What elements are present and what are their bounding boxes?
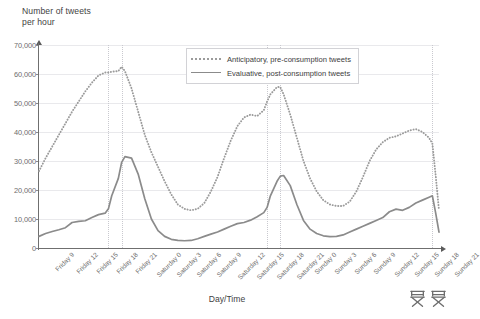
y-tick-label: 0 bbox=[2, 244, 36, 253]
x-axis-tick-labels: Friday 9Friday 12Friday 15Friday 18Frida… bbox=[39, 249, 441, 297]
legend-swatch-solid-icon bbox=[191, 71, 221, 75]
director-chair-icon-group bbox=[409, 288, 447, 308]
director-chair-icon bbox=[409, 288, 426, 308]
x-axis-arrow-icon bbox=[441, 246, 446, 252]
y-tick-label: 40,000 bbox=[2, 128, 36, 137]
y-axis-tick-labels: 010,00020,00030,00040,00050,00060,00070,… bbox=[0, 45, 36, 248]
x-tick-label: Friday 9 bbox=[54, 251, 76, 273]
legend-swatch-dotted-icon bbox=[191, 57, 221, 61]
x-axis-title: Day/Time bbox=[0, 294, 454, 304]
legend-entry-anticipatory: Anticipatory, pre-consumption tweets bbox=[191, 52, 351, 66]
y-tick-label: 20,000 bbox=[2, 186, 36, 195]
series-line bbox=[39, 67, 439, 211]
y-tick-label: 70,000 bbox=[2, 41, 36, 50]
y-tick-label: 60,000 bbox=[2, 70, 36, 79]
x-tick-label: Friday 12 bbox=[75, 251, 99, 275]
legend-label-evaluative: Evaluative, post-consumption tweets bbox=[227, 69, 350, 78]
series-line bbox=[39, 157, 439, 241]
y-tick-label: 50,000 bbox=[2, 99, 36, 108]
y-tick-label: 30,000 bbox=[2, 157, 36, 166]
y-tick-label: 10,000 bbox=[2, 215, 36, 224]
y-axis-title: Number of tweets per hour bbox=[22, 6, 91, 28]
chart-legend: Anticipatory, pre-consumption tweets Eva… bbox=[186, 48, 359, 84]
legend-entry-evaluative: Evaluative, post-consumption tweets bbox=[191, 66, 351, 80]
legend-label-anticipatory: Anticipatory, pre-consumption tweets bbox=[227, 55, 351, 64]
director-chair-icon bbox=[430, 288, 447, 308]
